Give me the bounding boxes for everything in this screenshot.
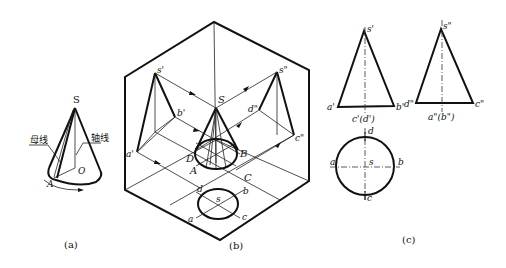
label-D: D	[185, 153, 194, 164]
caption-c: (c)	[402, 234, 416, 245]
label-a-prime: a'	[126, 149, 134, 159]
label-d: d	[197, 184, 203, 194]
label-top-b: b	[398, 157, 404, 167]
label-side-d: d"	[404, 99, 414, 109]
label-b-prime: b'	[177, 108, 185, 118]
label-O: O	[78, 166, 86, 176]
side-projection-triangle	[259, 72, 294, 135]
label-A: A	[189, 165, 197, 176]
label-s-prime: s'	[157, 65, 164, 75]
axis-leader	[76, 143, 83, 155]
label-generatrix: 母线	[30, 134, 48, 145]
label-top-d: d	[368, 126, 374, 136]
front-view-triangle	[338, 31, 394, 107]
cone-projection-diagram: S 母线 轴线 O A (a)	[0, 0, 506, 268]
label-B: B	[239, 148, 247, 159]
caption-b: (b)	[229, 240, 243, 251]
label-S: S	[73, 94, 80, 105]
label-c: c	[242, 212, 247, 222]
label-top-a: a	[330, 157, 335, 167]
side-view-triangle	[416, 29, 473, 103]
label-S-center: S	[218, 94, 225, 105]
label-side-bottom: a"(b")	[428, 112, 455, 122]
panel-c-orthographic-views: s' a' b' c'(d') s" d" c" a"(b") d c a b …	[327, 20, 484, 245]
label-A: A	[46, 179, 54, 189]
label-a: a	[188, 214, 193, 224]
label-front-bottom: c'(d')	[352, 114, 375, 124]
caption-a: (a)	[64, 239, 78, 250]
label-front-a: a'	[327, 102, 335, 112]
label-C: C	[244, 172, 252, 183]
generatrix-leader	[48, 145, 61, 163]
panel-b-projection-box: s' a' b' s" d" c" S A B C D s a b c d (b…	[125, 22, 309, 251]
label-axis: 轴线	[91, 132, 109, 143]
label-b: b	[243, 186, 249, 196]
projector-s-front	[155, 73, 216, 108]
hexagon-frame	[125, 22, 309, 240]
label-side-c: c"	[475, 99, 484, 109]
label-top-c: c	[367, 193, 372, 203]
label-s: s	[216, 194, 221, 204]
label-front-s: s'	[367, 24, 374, 34]
label-s-dprime: s"	[279, 65, 288, 75]
label-front-b: b'	[396, 102, 404, 112]
label-top-s: s	[369, 157, 374, 167]
panel-a-cone: S 母线 轴线 O A (a)	[29, 94, 109, 250]
label-side-s: s"	[443, 21, 452, 31]
label-c-dprime: c"	[295, 133, 304, 143]
label-d-dprime: d"	[248, 104, 258, 114]
